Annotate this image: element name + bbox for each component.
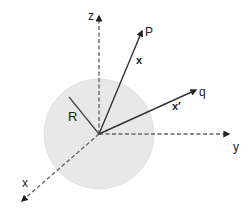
- axis-z-label: z: [88, 9, 94, 23]
- radius-label: R: [68, 109, 77, 124]
- coordinate-diagram: zyx Pxqx′ R: [0, 0, 252, 214]
- vector-x-prime-label: x′: [172, 100, 181, 112]
- axis-x-label: x: [22, 176, 28, 190]
- vector-x-label: x: [136, 54, 143, 66]
- axis-y-label: y: [233, 140, 239, 154]
- point-q-label: q: [199, 85, 206, 99]
- point-P-label: P: [145, 25, 153, 39]
